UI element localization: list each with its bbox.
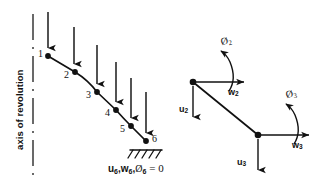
u3-label: u3 bbox=[237, 158, 246, 168]
bc-phi-subscript: 6 bbox=[143, 168, 147, 175]
boundary-condition-text: u6,w6,Ø6 = 0 bbox=[108, 163, 164, 175]
node-marker-3 bbox=[94, 89, 100, 95]
node-2-dof-arrows bbox=[193, 51, 244, 117]
node-label-6: 6 bbox=[152, 134, 157, 144]
u3-subscript: 3 bbox=[243, 160, 247, 167]
element-node-3-marker bbox=[255, 132, 262, 139]
bc-w-symbol: w bbox=[121, 163, 129, 174]
node-marker-2 bbox=[72, 69, 78, 75]
element-node-2-marker bbox=[190, 79, 197, 86]
fixed-support bbox=[128, 150, 162, 158]
node-marker-6 bbox=[143, 138, 149, 144]
node-label-2: 2 bbox=[64, 70, 69, 80]
w3-subscript: 3 bbox=[299, 143, 303, 150]
w2-symbol: w bbox=[228, 87, 235, 97]
u2-label: u2 bbox=[179, 105, 188, 115]
node-label-1: 1 bbox=[38, 49, 43, 59]
diagram-svg bbox=[0, 0, 322, 186]
node-marker-4 bbox=[113, 107, 119, 113]
phi2-label: Ø2 bbox=[220, 35, 233, 49]
bc-phi-symbol: Ø bbox=[135, 163, 142, 174]
w2-subscript: 2 bbox=[235, 90, 239, 97]
node-marker-5 bbox=[128, 123, 134, 129]
support-hatching bbox=[128, 150, 161, 158]
node-label-3: 3 bbox=[86, 90, 91, 100]
phi3-rotation-arrow bbox=[286, 104, 298, 144]
u2-subscript: 2 bbox=[185, 107, 189, 114]
node-marker-1 bbox=[45, 53, 51, 59]
phi3-label: Ø3 bbox=[285, 88, 298, 102]
w2-label: w2 bbox=[228, 88, 239, 98]
axis-of-revolution-label: axis of revolution bbox=[14, 70, 25, 150]
figure-canvas: axis of revolution 1 2 3 4 5 6 u6,w6,Ø6 … bbox=[0, 0, 322, 186]
element-segment bbox=[193, 82, 258, 135]
bc-equals-zero: = 0 bbox=[149, 162, 163, 174]
node-label-5: 5 bbox=[120, 124, 125, 134]
w3-label: w3 bbox=[292, 141, 303, 151]
phi2-rotation-arrow bbox=[221, 51, 233, 91]
w3-symbol: w bbox=[292, 140, 299, 150]
node-3-dof-arrows bbox=[258, 104, 309, 170]
load-arrows bbox=[48, 12, 146, 133]
node-label-4: 4 bbox=[105, 108, 110, 118]
